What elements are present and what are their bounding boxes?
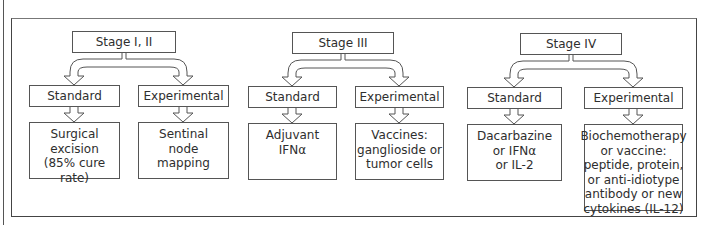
experimental-box-stage-3: Experimental xyxy=(355,86,444,108)
stage-box-stage-3: Stage III xyxy=(292,32,394,54)
standard-treatment-stage-1-2: Surgical excision (85% cure rate) xyxy=(29,122,120,179)
page-edge-line xyxy=(3,0,4,225)
stage-box-stage-1-2: Stage I, II xyxy=(72,31,176,53)
experimental-box-stage-4: Experimental xyxy=(584,87,683,109)
stage-box-stage-4: Stage IV xyxy=(520,33,622,55)
standard-treatment-stage-3: Adjuvant IFNα xyxy=(248,123,337,180)
experimental-box-stage-1-2: Experimental xyxy=(138,85,229,107)
experimental-treatment-stage-3: Vaccines: ganglioside or tumor cells xyxy=(355,123,444,180)
standard-box-stage-1-2: Standard xyxy=(29,85,120,107)
standard-box-stage-4: Standard xyxy=(467,87,562,109)
standard-treatment-stage-4: Dacarbazine or IFNα or IL-2 xyxy=(467,124,562,181)
experimental-treatment-stage-1-2: Sentinal node mapping xyxy=(138,122,229,179)
experimental-treatment-stage-4: Biochemotherapy or vaccine: peptide, pro… xyxy=(584,124,683,211)
standard-box-stage-3: Standard xyxy=(248,86,337,108)
